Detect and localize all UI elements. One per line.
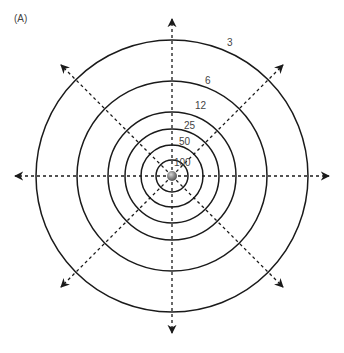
- ring-label: 25: [184, 120, 196, 131]
- ring-label: 3: [227, 37, 233, 48]
- point-source-sphere: [167, 171, 177, 181]
- ring-label: 100: [174, 157, 191, 168]
- ring-label: 6: [205, 75, 211, 86]
- ray-arrow: [172, 176, 283, 287]
- ray-arrow: [61, 65, 172, 176]
- ring-label: 50: [179, 136, 191, 147]
- radiation-diagram: 36122550100: [0, 0, 344, 353]
- ray-arrow: [61, 176, 172, 287]
- ring-label: 12: [195, 100, 207, 111]
- ring-labels: 36122550100: [174, 37, 233, 168]
